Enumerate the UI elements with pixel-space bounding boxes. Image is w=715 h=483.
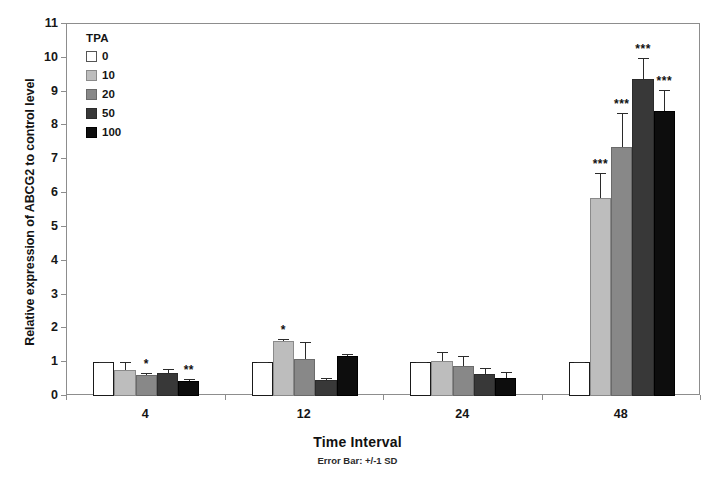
legend-swatch-icon	[86, 70, 97, 81]
error-bar-cap	[184, 379, 195, 380]
error-bar-cap	[163, 369, 174, 370]
y-tick-label: 2	[28, 320, 58, 334]
legend-swatch-icon	[86, 108, 97, 119]
y-tick-label: 10	[28, 50, 58, 64]
legend-swatch-icon	[86, 89, 97, 100]
error-bar-cap	[458, 356, 469, 357]
bar	[474, 374, 495, 396]
y-tick-label: 8	[28, 117, 58, 131]
error-bar	[125, 362, 126, 369]
x-tick-label: 48	[591, 407, 651, 421]
error-bar-cap	[437, 352, 448, 353]
error-bar-cap	[99, 362, 110, 363]
error-bar-cap	[659, 90, 670, 91]
legend-item: 10	[86, 68, 121, 83]
x-tick-mark	[66, 395, 67, 400]
bar	[495, 378, 516, 396]
legend-item-label: 20	[102, 89, 115, 101]
y-tick-label: 9	[28, 84, 58, 98]
plot-area: ****************	[66, 23, 700, 395]
x-tick-mark	[542, 395, 543, 400]
error-bar	[442, 352, 443, 361]
significance-marker: *	[144, 358, 149, 370]
bar	[252, 362, 273, 396]
error-bar-cap	[501, 372, 512, 373]
legend-title: TPA	[86, 32, 121, 44]
y-tick-label: 6	[28, 185, 58, 199]
error-bar	[600, 173, 601, 198]
error-bar	[664, 90, 665, 111]
error-bar-cap	[342, 354, 353, 355]
bar	[114, 370, 135, 396]
legend-item-label: 10	[102, 70, 115, 82]
error-bar-cap	[120, 362, 131, 363]
chart-root: Relative expression of ABCG2 to control …	[0, 0, 715, 483]
legend-item: 100	[86, 125, 121, 140]
legend-swatch-icon	[86, 127, 97, 138]
error-bar-cap	[141, 373, 152, 374]
error-bar-cap	[321, 378, 332, 379]
legend-item-label: 100	[102, 127, 121, 139]
error-bar-cap	[638, 58, 649, 59]
bar	[294, 359, 315, 396]
x-axis-title: Time Interval	[0, 434, 715, 450]
y-tick-label: 11	[28, 16, 58, 30]
y-tick-label: 5	[28, 219, 58, 233]
error-bar-cap	[278, 339, 289, 340]
legend-swatch-icon	[86, 51, 97, 62]
legend-item-label: 50	[102, 108, 115, 120]
error-bar-cap	[257, 362, 268, 363]
bar	[178, 381, 199, 396]
bar	[273, 341, 294, 396]
bar	[93, 362, 114, 396]
significance-marker: ***	[657, 75, 673, 87]
legend-item-label: 0	[102, 51, 108, 63]
bar	[611, 147, 632, 396]
y-tick-label: 1	[28, 354, 58, 368]
legend-item: 20	[86, 87, 121, 102]
x-tick-mark	[225, 395, 226, 400]
significance-marker: **	[184, 364, 194, 376]
significance-marker: *	[281, 324, 286, 336]
x-tick-mark	[700, 395, 701, 400]
bar	[431, 361, 452, 396]
y-tick-label: 4	[28, 253, 58, 267]
bar	[410, 362, 431, 396]
error-bar-cap	[416, 362, 427, 363]
x-tick-label: 12	[274, 407, 334, 421]
bar	[590, 198, 611, 396]
significance-marker: ***	[635, 43, 651, 55]
legend: TPA 0102050100	[86, 32, 121, 144]
bar	[315, 380, 336, 396]
bar	[453, 366, 474, 396]
error-bar	[463, 356, 464, 365]
bar	[632, 79, 653, 396]
bar	[654, 111, 675, 396]
error-bar	[622, 113, 623, 147]
bar	[136, 375, 157, 396]
error-bar-cap	[617, 113, 628, 114]
y-tick-label: 0	[28, 388, 58, 402]
x-tick-label: 4	[115, 407, 175, 421]
bar	[157, 373, 178, 396]
error-bar-cap	[480, 368, 491, 369]
error-bar-cap	[300, 342, 311, 343]
y-tick-label: 7	[28, 151, 58, 165]
legend-item: 0	[86, 49, 121, 64]
significance-marker: ***	[593, 158, 609, 170]
error-bar	[643, 58, 644, 79]
y-tick-label: 3	[28, 287, 58, 301]
error-bar-cap	[574, 362, 585, 363]
bar	[337, 356, 358, 396]
error-bar-cap	[595, 173, 606, 174]
error-bar-note: Error Bar: +/-1 SD	[0, 455, 715, 466]
legend-item: 50	[86, 106, 121, 121]
error-bar	[305, 342, 306, 360]
x-tick-mark	[383, 395, 384, 400]
x-tick-label: 24	[432, 407, 492, 421]
y-axis-title: Relative expression of ABCG2 to control …	[23, 22, 37, 402]
bar	[569, 362, 590, 396]
significance-marker: ***	[614, 98, 630, 110]
